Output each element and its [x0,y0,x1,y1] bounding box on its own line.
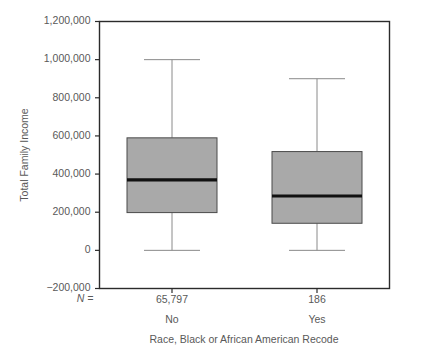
x-axis-labels: 65,797No186Yes [156,293,326,325]
box-plot-series [127,60,362,251]
y-tick-label: 1,000,000 [44,52,91,64]
x-axis-title: Race, Black or African American Recode [149,333,338,345]
boxplot-figure: 1,200,0001,000,000800,000600,000400,0002… [0,0,430,351]
box-plot-no [127,60,217,251]
y-tick-label: 200,000 [53,205,91,217]
y-tick-label: 400,000 [53,167,91,179]
iqr-box [272,152,362,224]
n-equals-label: N = [77,292,94,304]
y-axis-title: Total Family Income [18,108,30,202]
category-count-label: 186 [308,293,326,305]
iqr-box [127,138,217,213]
category-label: Yes [308,313,325,325]
category-label: No [165,313,179,325]
y-axis-tick-labels: 1,200,0001,000,000800,000600,000400,0002… [44,14,91,293]
y-tick-label: 600,000 [53,129,91,141]
category-count-label: 65,797 [156,293,188,305]
y-tick-label: 1,200,000 [44,14,91,26]
y-tick-label: 800,000 [53,91,91,103]
box-plot-yes [272,79,362,251]
y-tick-label: 0 [85,243,91,255]
boxplot-canvas: 1,200,0001,000,000800,000600,000400,0002… [0,0,430,351]
